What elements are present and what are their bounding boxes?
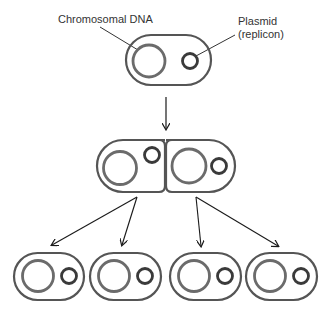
plasmid-label: Plasmid: [238, 15, 277, 27]
plasmid-ring: [294, 269, 309, 284]
dividing-cell-left: [97, 140, 165, 192]
plasmid-ring: [183, 54, 198, 69]
chromosome-ring: [255, 261, 286, 292]
chromosome-pointer-line: [100, 27, 138, 50]
chromosome-ring: [99, 261, 130, 292]
plasmid-ring: [138, 269, 153, 284]
plasmid-ring: [212, 159, 227, 174]
chromosome-ring: [179, 261, 210, 292]
cell-wall: [14, 253, 84, 300]
plasmid-diagram: Chromosomal DNA Plasmid (replicon): [0, 0, 333, 316]
chromosome-ring: [23, 261, 54, 292]
arrow-to-daughter-4: [196, 197, 278, 246]
plasmid-ring: [145, 148, 160, 163]
parent-cell: [126, 35, 211, 85]
dividing-cell-right: [166, 140, 235, 192]
cell-wall: [90, 253, 161, 300]
cell-wall: [246, 253, 317, 300]
plasmid-pointer-line: [196, 35, 235, 56]
daughter-cell-2: [90, 253, 161, 300]
plasmid-ring: [218, 269, 233, 284]
chromosome-ring: [172, 149, 206, 183]
chromosomal-dna-label: Chromosomal DNA: [58, 13, 153, 25]
cell-wall: [170, 253, 241, 300]
daughter-cell-3: [170, 253, 241, 300]
arrow-to-daughter-3: [196, 197, 201, 246]
plasmid-label-sub: (replicon): [238, 28, 284, 40]
daughter-cell-4: [246, 253, 317, 300]
cell-wall: [166, 140, 235, 192]
plasmid-ring: [62, 269, 77, 284]
chromosome-ring: [104, 152, 137, 185]
chromosome-ring: [133, 45, 165, 77]
daughter-cell-1: [14, 253, 84, 300]
